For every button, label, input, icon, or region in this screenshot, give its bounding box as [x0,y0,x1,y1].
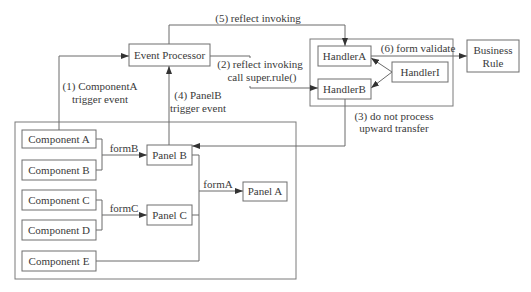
edge-handleri-to-handlerb [371,72,392,88]
forma-label: formA [203,178,232,190]
component-c-label: Component C [28,194,89,206]
panel-c-label: Panel C [152,209,187,221]
step1-label-line1: (1) ComponentA [63,80,138,93]
step2-label-line2: call super.rule() [227,71,296,84]
step3-label-line2: upward transfer [359,122,429,134]
business-rule-label-line2: Rule [483,57,504,69]
step6-label: (6) form validate [381,42,456,55]
step4-label-line2: trigger event [170,102,226,114]
component-e-label: Component E [29,255,90,267]
handler-a-label: HandlerA [323,50,366,62]
component-d-label: Component D [28,224,90,236]
panel-b-label: Panel B [152,149,187,161]
diagram-canvas: Event Processor Component A Component B … [0,0,531,292]
step2-label-line1: (2) reflect invoking [217,58,303,71]
business-rule-label-line1: Business [473,44,512,56]
edge-handleri-to-handlera [371,58,392,72]
step5-label: (5) reflect invoking [215,12,301,25]
edge-eventprocessor-to-handlera [169,25,345,46]
step4-label-line1: (4) PanelB [174,89,221,102]
component-a-label: Component A [28,133,89,145]
panel-a-label: Panel A [248,185,283,197]
step1-label-line2: trigger event [72,93,128,105]
formb-label: formB [110,142,139,154]
handler-i-label: HandlerI [400,66,439,78]
event-processor-label: Event Processor [134,49,206,61]
component-b-label: Component B [28,164,89,176]
formc-label: formC [110,202,139,214]
handler-b-label: HandlerB [323,83,366,95]
